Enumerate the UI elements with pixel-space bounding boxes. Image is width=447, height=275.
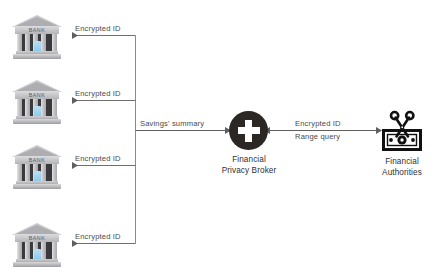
bank-label-3: BANK (29, 157, 46, 163)
bank-pediment-inner-icon (16, 82, 58, 91)
bank-columns-icon (17, 99, 57, 116)
bank-label-4: BANK (29, 235, 46, 241)
broker-node[interactable] (229, 111, 268, 150)
bank-columns-icon (17, 164, 57, 181)
authorities-caption: Financial Authorities (366, 157, 438, 178)
bank-base-icon (13, 119, 61, 124)
bank-door-icon (34, 106, 41, 116)
bank-pediment-inner-icon (16, 147, 58, 156)
edge-label-encrypted-id-1: Encrypted ID (75, 24, 121, 33)
authorities-node[interactable] (378, 110, 426, 154)
bank-base-icon (13, 184, 61, 189)
plus-circle-icon (238, 120, 260, 142)
bank-node-3[interactable]: BANK (12, 142, 62, 190)
bank-node-4[interactable]: BANK (12, 220, 62, 268)
authorities-caption-line2: Authorities (366, 168, 438, 179)
bank-label-2: BANK (29, 92, 46, 98)
edge-label-encrypted-id-authorities: Encrypted ID (295, 119, 341, 128)
bank-frieze: BANK (15, 234, 59, 242)
banknote-scissors-icon (378, 110, 426, 154)
edge-label-range-query: Range query (295, 132, 340, 141)
broker-caption-line1: Financial (208, 155, 290, 166)
edge-label-encrypted-id-3: Encrypted ID (75, 154, 121, 163)
bank-label-1: BANK (29, 27, 46, 33)
edge-label-encrypted-id-2: Encrypted ID (75, 89, 121, 98)
bank-pediment-inner-icon (16, 225, 58, 234)
bank-door-icon (34, 41, 41, 51)
authorities-caption-line1: Financial (366, 157, 438, 168)
edge-label-encrypted-id-4: Encrypted ID (75, 232, 121, 241)
bank-frieze: BANK (15, 156, 59, 164)
bank-door-icon (34, 249, 41, 259)
bank-door-icon (34, 171, 41, 181)
bank-frieze: BANK (15, 26, 59, 34)
bank-node-1[interactable]: BANK (12, 12, 62, 60)
bank-base-icon (13, 54, 61, 59)
edge-label-savings-summary: Savings' summary (140, 119, 204, 128)
bank-node-2[interactable]: BANK (12, 77, 62, 125)
bank-base-icon (13, 262, 61, 267)
bank-columns-icon (17, 34, 57, 51)
bank-frieze: BANK (15, 91, 59, 99)
bank-pediment-inner-icon (16, 17, 58, 26)
bank-columns-icon (17, 242, 57, 259)
broker-caption-line2: Privacy Broker (208, 166, 290, 177)
diagram-canvas: BANK BANK (0, 0, 447, 275)
broker-caption: Financial Privacy Broker (208, 155, 290, 176)
